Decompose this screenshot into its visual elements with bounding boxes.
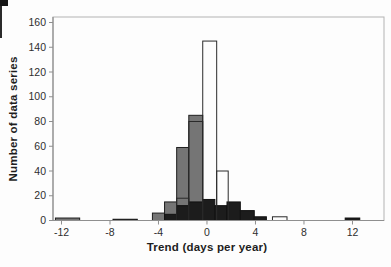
y-tick-label: 60 — [34, 140, 46, 152]
x-tick-label: -8 — [105, 226, 114, 238]
x-axis-title: Trend (days per year) — [147, 241, 268, 253]
trend-histogram-figure: 020406080100120140160-12-8-404812 Number… — [0, 0, 391, 267]
x-tick-label: -4 — [154, 226, 163, 238]
y-tick-label: 20 — [34, 189, 46, 201]
y-tick-label: 100 — [28, 90, 46, 102]
y-tick-label: 40 — [34, 165, 46, 177]
black-filled-bar — [165, 214, 177, 220]
gray-filled-bar — [152, 213, 164, 220]
y-tick-label: 140 — [28, 41, 46, 53]
white-outline-bar — [203, 41, 217, 220]
black-filled-bar — [227, 202, 240, 221]
black-filled-bar — [203, 199, 215, 220]
x-tick-label: -12 — [54, 226, 69, 238]
black-filled-bar — [189, 202, 203, 221]
black-filled-bar — [177, 206, 189, 221]
y-tick-label: 80 — [34, 115, 46, 127]
y-tick-label: 160 — [28, 16, 46, 28]
y-axis-title: Number of data series — [7, 57, 19, 182]
black-filled-bar — [240, 211, 254, 221]
x-tick-label: 8 — [301, 226, 307, 238]
y-tick-label: 120 — [28, 66, 46, 78]
x-tick-label: 0 — [204, 226, 210, 238]
x-tick-label: 12 — [347, 226, 359, 238]
histogram-plot: 020406080100120140160-12-8-404812 — [0, 0, 391, 267]
plot-frame — [53, 17, 384, 221]
x-tick-label: 4 — [253, 226, 259, 238]
y-tick-label: 0 — [40, 214, 46, 226]
